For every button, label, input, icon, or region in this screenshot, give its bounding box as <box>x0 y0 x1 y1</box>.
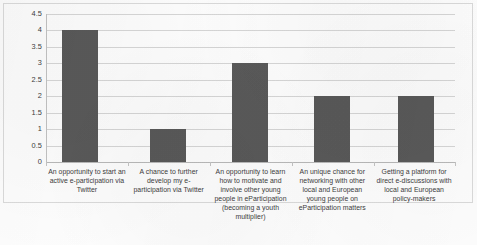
gridline-4 <box>46 30 455 31</box>
gridline-4.5 <box>46 14 455 15</box>
x-tick-4 <box>374 162 375 166</box>
y-tick-4.5: 4.5 <box>8 10 42 18</box>
bar-chart: 4.5 4 3.5 3 2.5 2 1.5 1 0.5 0 An oppor <box>0 0 477 245</box>
x-tick-5 <box>455 162 456 166</box>
category-label-2: A chance to further develop my e-partici… <box>128 167 210 243</box>
y-tick-1.5: 1.5 <box>8 109 42 117</box>
plot-area <box>46 14 455 162</box>
x-tick-2 <box>210 162 211 166</box>
y-tick-0.5: 0.5 <box>8 142 42 150</box>
bar-category-4 <box>314 96 350 162</box>
y-tick-2: 2 <box>8 92 42 100</box>
y-axis-line <box>46 14 47 163</box>
x-tick-3 <box>292 162 293 166</box>
y-tick-2.5: 2.5 <box>8 76 42 84</box>
category-label-5: Getting a platform for direct e-discussi… <box>373 167 455 243</box>
y-tick-3.5: 3.5 <box>8 43 42 51</box>
x-tick-1 <box>128 162 129 166</box>
y-tick-4: 4 <box>8 26 42 34</box>
bar-category-3 <box>232 63 268 162</box>
category-label-1: An opportunity to start an active e-part… <box>46 167 128 243</box>
y-tick-1: 1 <box>8 125 42 133</box>
gridline-3.5 <box>46 47 455 48</box>
y-tick-3: 3 <box>8 59 42 67</box>
gridline-0-baseline <box>46 162 455 163</box>
x-tick-0 <box>46 162 47 166</box>
bar-category-5 <box>398 96 434 162</box>
bar-category-2 <box>150 129 186 162</box>
x-axis-category-labels: An opportunity to start an active e-part… <box>46 167 455 243</box>
y-tick-0: 0 <box>8 158 42 166</box>
category-label-4: An unique chance for networking with oth… <box>291 167 373 243</box>
category-label-3: An opportunity to learn how to motivate … <box>210 167 292 243</box>
bar-category-1 <box>62 30 98 162</box>
y-axis-tick-labels: 4.5 4 3.5 3 2.5 2 1.5 1 0.5 0 <box>6 14 42 162</box>
